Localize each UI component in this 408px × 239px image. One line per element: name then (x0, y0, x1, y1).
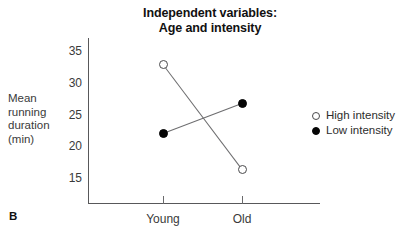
y-axis-title-line-2: running (8, 106, 58, 120)
y-axis-line (88, 38, 89, 204)
legend-item-high-intensity: High intensity (312, 108, 408, 123)
y-axis-title: Mean running duration (min) (8, 92, 58, 146)
series-line-low-intensity (163, 103, 242, 134)
figure-panel-b: Independent variables: Age and intensity… (0, 0, 408, 239)
y-axis-title-line-1: Mean (8, 92, 58, 106)
data-point-low-young (159, 129, 168, 138)
x-tick-young (163, 196, 164, 204)
y-tick-35: 35 (56, 45, 82, 57)
legend-label-high-intensity: High intensity (326, 109, 395, 122)
panel-letter: B (9, 210, 17, 222)
data-point-high-old (238, 165, 247, 174)
open-circle-icon (312, 112, 320, 120)
x-label-old: Old (202, 212, 282, 226)
data-point-low-old (238, 99, 247, 108)
filled-circle-icon (312, 127, 320, 135)
chart-legend: High intensity Low intensity (312, 108, 408, 138)
data-point-high-young (159, 60, 168, 69)
y-tick-25: 25 (56, 109, 82, 121)
x-axis-line (88, 203, 320, 204)
y-tick-15: 15 (56, 172, 82, 184)
legend-item-low-intensity: Low intensity (312, 123, 408, 138)
x-tick-old (242, 196, 243, 204)
y-axis-title-line-3: duration (8, 119, 58, 133)
y-tick-30: 30 (56, 77, 82, 89)
legend-label-low-intensity: Low intensity (326, 124, 392, 137)
x-label-young: Young (123, 212, 203, 226)
y-tick-20: 20 (56, 140, 82, 152)
y-axis-title-line-4: (min) (8, 133, 58, 147)
